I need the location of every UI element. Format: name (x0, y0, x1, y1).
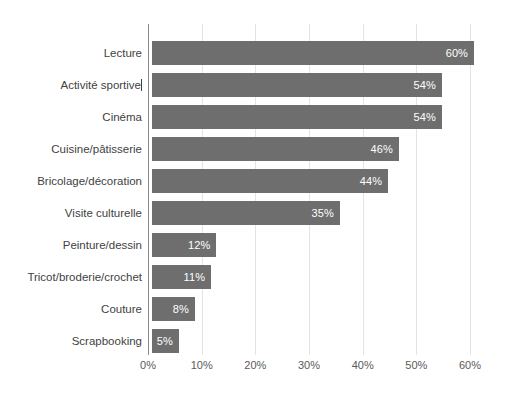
bar[interactable]: 44% (152, 169, 388, 193)
bar[interactable]: 46% (152, 137, 399, 161)
category-axis-labels: LectureActivité sportiveCinémaCuisine/pâ… (0, 24, 142, 355)
bar-row: 12% (148, 233, 470, 257)
category-label: Bricolage/décoration (37, 169, 142, 193)
bar-row: 60% (148, 41, 470, 65)
bar-row: 44% (148, 169, 470, 193)
bar-rows: 60%54%54%46%44%35%12%11%8%5% (148, 24, 470, 355)
text-caret-icon (141, 79, 142, 91)
bar-value-label: 11% (184, 272, 212, 283)
category-label: Lecture (104, 41, 142, 65)
x-tick-label: 60% (459, 358, 481, 372)
x-tick-label: 0% (140, 358, 156, 372)
bar-row: 8% (148, 297, 470, 321)
bar[interactable]: 5% (152, 329, 179, 353)
x-tick-label: 10% (191, 358, 213, 372)
bar[interactable]: 11% (152, 265, 211, 289)
bar[interactable]: 8% (152, 297, 195, 321)
bar-value-label: 8% (173, 304, 195, 315)
bar-row: 54% (148, 105, 470, 129)
bar-value-label: 44% (360, 176, 388, 187)
gridline-60 (470, 24, 471, 355)
bar[interactable]: 60% (152, 41, 474, 65)
category-label: Scrapbooking (72, 329, 142, 353)
category-label: Couture (101, 297, 142, 321)
category-label: Cinéma (102, 105, 142, 129)
bar-chart: LectureActivité sportiveCinémaCuisine/pâ… (0, 0, 514, 395)
category-label: Visite culturelle (65, 201, 142, 225)
x-tick-label: 30% (298, 358, 320, 372)
x-tick-label: 50% (405, 358, 427, 372)
bar-value-label: 54% (413, 112, 441, 123)
bar-row: 54% (148, 73, 470, 97)
plot-area: 60%54%54%46%44%35%12%11%8%5% (148, 24, 470, 355)
bar-value-label: 54% (413, 80, 441, 91)
bar[interactable]: 54% (152, 73, 442, 97)
bar-value-label: 12% (188, 240, 216, 251)
bar[interactable]: 54% (152, 105, 442, 129)
category-label: Cuisine/pâtisserie (51, 137, 142, 161)
category-label: Peinture/dessin (63, 233, 142, 257)
bar-row: 46% (148, 137, 470, 161)
bar-row: 11% (148, 265, 470, 289)
x-tick-label: 20% (244, 358, 266, 372)
x-axis-tick-labels: 0%10%20%30%40%50%60% (148, 358, 470, 378)
bar[interactable]: 12% (152, 233, 216, 257)
bar[interactable]: 35% (152, 201, 340, 225)
bar-row: 35% (148, 201, 470, 225)
category-label: Activité sportive (60, 73, 142, 97)
bar-value-label: 5% (157, 336, 179, 347)
bar-row: 5% (148, 329, 470, 353)
category-label: Tricot/broderie/crochet (27, 265, 142, 289)
x-tick-label: 40% (352, 358, 374, 372)
bar-value-label: 46% (371, 144, 399, 155)
bar-value-label: 35% (312, 208, 340, 219)
bar-value-label: 60% (446, 48, 474, 59)
